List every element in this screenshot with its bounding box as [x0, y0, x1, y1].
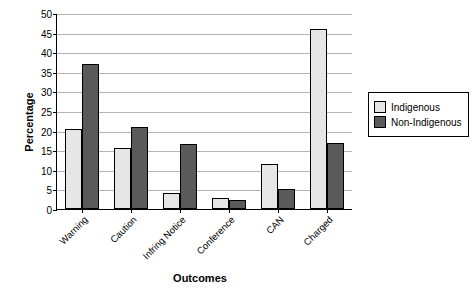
bar — [131, 127, 148, 209]
y-tick-label: 20 — [41, 126, 52, 137]
y-axis-label: Percentage — [23, 67, 35, 177]
bar — [163, 193, 180, 209]
bar — [82, 64, 99, 209]
legend-label-non-indigenous: Non-Indigenous — [391, 117, 462, 128]
y-tick-label: 40 — [41, 48, 52, 59]
y-tick-label: 10 — [41, 165, 52, 176]
x-axis-label: Outcomes — [120, 272, 280, 284]
x-tick-mark — [180, 209, 181, 213]
x-tick-label: Conference — [194, 214, 237, 257]
x-tick-mark — [229, 209, 230, 213]
legend-swatch-non-indigenous — [374, 116, 386, 128]
legend-item-non-indigenous: Non-Indigenous — [374, 116, 462, 128]
legend-swatch-indigenous — [374, 101, 386, 113]
y-tick-label: 25 — [41, 107, 52, 118]
gridline — [57, 210, 352, 211]
plot-area: 05101520253035404550 WarningCautionInfri… — [56, 14, 352, 210]
bar — [310, 29, 327, 209]
bar — [327, 143, 344, 209]
legend: Indigenous Non-Indigenous — [368, 92, 469, 137]
bar-group: Charged — [303, 14, 352, 209]
x-tick-mark — [278, 209, 279, 213]
y-tick-label: 0 — [46, 205, 52, 216]
legend-label-indigenous: Indigenous — [391, 102, 440, 113]
y-tick-label: 5 — [46, 185, 52, 196]
bar — [65, 129, 82, 209]
bar-chart: Percentage 05101520253035404550 WarningC… — [0, 0, 472, 294]
bar — [261, 164, 278, 209]
bar-groups: WarningCautionInfring NoticeConferenceCA… — [57, 14, 352, 209]
x-tick-label: Infring Notice — [140, 214, 187, 261]
bar-group: Infring Notice — [155, 14, 204, 209]
bar — [180, 144, 197, 209]
bar-group: Conference — [205, 14, 254, 209]
y-tick-label: 35 — [41, 67, 52, 78]
bar-group: CAN — [254, 14, 303, 209]
y-tick-label: 50 — [41, 9, 52, 20]
x-tick-label: Caution — [108, 214, 139, 245]
x-tick-mark — [327, 209, 328, 213]
bar — [114, 148, 131, 209]
bar-group: Caution — [106, 14, 155, 209]
bar-group: Warning — [57, 14, 106, 209]
legend-item-indigenous: Indigenous — [374, 101, 462, 113]
x-tick-mark — [82, 209, 83, 213]
x-tick-label: Charged — [302, 214, 336, 248]
x-tick-mark — [131, 209, 132, 213]
x-tick-label: CAN — [264, 214, 286, 236]
x-tick-label: Warning — [57, 214, 90, 247]
y-tick-mark — [53, 210, 57, 211]
y-tick-label: 15 — [41, 146, 52, 157]
y-tick-label: 30 — [41, 87, 52, 98]
bar — [212, 198, 229, 209]
y-tick-label: 45 — [41, 28, 52, 39]
bar — [229, 200, 246, 209]
bar — [278, 189, 295, 209]
